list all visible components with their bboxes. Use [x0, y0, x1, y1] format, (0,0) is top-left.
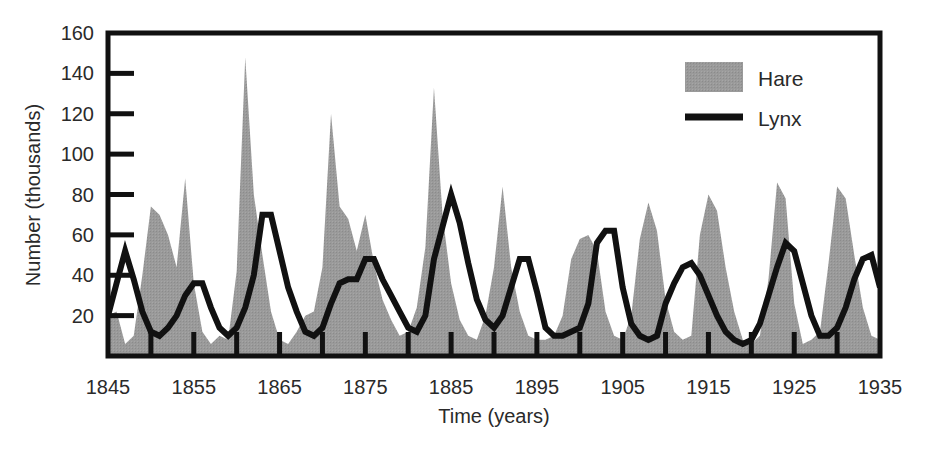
y-tick-label: 100: [61, 143, 94, 165]
y-tick-label: 160: [61, 22, 94, 44]
x-tick-label: 1915: [686, 376, 731, 398]
x-tick-label: 1925: [772, 376, 817, 398]
x-tick-label: 1895: [515, 376, 560, 398]
x-tick-label: 1935: [858, 376, 903, 398]
chart-canvas: 20406080100120140160 1845185518651875188…: [0, 0, 928, 452]
x-tick-label: 1845: [86, 376, 131, 398]
y-tick-label: 120: [61, 103, 94, 125]
x-tick-label: 1855: [172, 376, 217, 398]
legend-label-lynx: Lynx: [758, 107, 802, 130]
hare-lynx-population-chart: 20406080100120140160 1845185518651875188…: [0, 0, 928, 452]
x-tick-label: 1905: [600, 376, 645, 398]
x-tick-label: 1875: [343, 376, 388, 398]
y-tick-label: 140: [61, 62, 94, 84]
y-tick-label: 40: [72, 264, 94, 286]
x-tick-label: 1865: [257, 376, 302, 398]
legend-swatch-hare: [685, 62, 743, 92]
y-tick-label: 60: [72, 224, 94, 246]
x-axis-title: Time (years): [438, 405, 549, 427]
y-tick-label: 20: [72, 305, 94, 327]
x-tick-label: 1885: [429, 376, 474, 398]
y-axis-title: Number (thousands): [22, 104, 44, 286]
legend-label-hare: Hare: [758, 67, 804, 90]
y-tick-label: 80: [72, 184, 94, 206]
